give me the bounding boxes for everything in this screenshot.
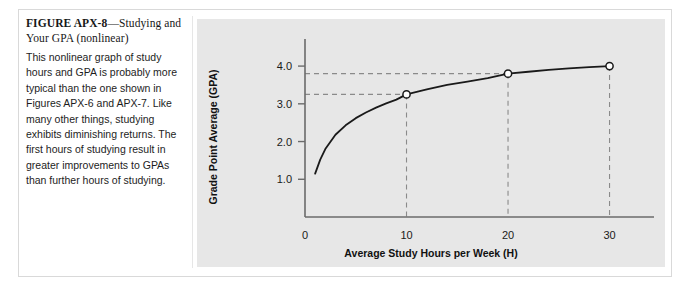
x-axis-title: Average Study Hours per Week (H)	[344, 247, 517, 259]
figure-number: FIGURE APX-8	[26, 17, 107, 29]
axis-labels-group: 1.02.03.04.00102030	[277, 60, 616, 241]
data-marker-30h	[606, 62, 613, 69]
x-tick-label-0: 0	[302, 229, 308, 241]
y-tick-label-2.0: 2.0	[277, 136, 292, 148]
y-tick-label-3.0: 3.0	[277, 98, 292, 110]
gpa-curve	[315, 66, 609, 174]
x-tick-label-30: 30	[603, 229, 615, 241]
caption-column: FIGURE APX-8—Studying and Your GPA (nonl…	[26, 16, 186, 266]
column-divider	[192, 16, 193, 268]
chart-panel: 1.02.03.04.00102030 Average Study Hours …	[197, 19, 665, 267]
axis-ticks-group	[298, 66, 305, 179]
figure-container: FIGURE APX-8—Studying and Your GPA (nonl…	[0, 0, 691, 285]
data-marker-10h	[403, 91, 410, 98]
y-tick-label-4.0: 4.0	[277, 60, 292, 72]
y-axis-title: Grade Point Average (GPA)	[207, 70, 219, 205]
data-marker-20h	[504, 70, 511, 77]
gpa-study-hours-chart: 1.02.03.04.00102030 Average Study Hours …	[197, 19, 665, 267]
x-tick-label-10: 10	[400, 229, 412, 241]
curve-group	[315, 66, 609, 174]
figure-title: FIGURE APX-8—Studying and Your GPA (nonl…	[26, 16, 186, 45]
guide-lines-group	[305, 66, 610, 217]
y-tick-label-1.0: 1.0	[277, 173, 292, 185]
x-tick-label-20: 20	[502, 229, 514, 241]
figure-caption-text: This nonlinear graph of study hours and …	[26, 50, 186, 189]
